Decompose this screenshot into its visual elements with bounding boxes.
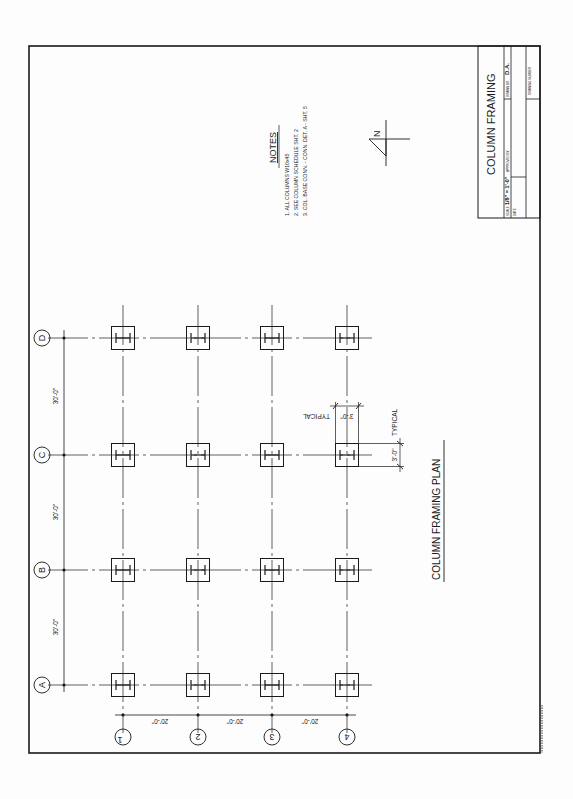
spacing-label-b-c: 30'-0": [52, 503, 59, 520]
svg-text:C: C: [37, 451, 47, 458]
title-block-drawn-label: DRAWN BY: [506, 81, 510, 97]
title-block-scale-label: SCALE: [506, 206, 510, 216]
title-block-date-label: DATE: [513, 208, 517, 216]
typical-dim-value-1: 3'-0": [340, 413, 354, 420]
note-item: 2. SEE COLUMN SCHEDULE SHT. 2: [293, 129, 299, 216]
drawing-sheet: COLUMN FRAMING SCALE 1/8" = 1'-0" APPROV…: [0, 0, 573, 799]
grid-bubble-a: A: [34, 677, 50, 693]
grid-spacing-labels: 30'-0" 30'-0" 30'-0" 20'-0" 20'-0" 20'-0…: [52, 387, 318, 725]
svg-text:D: D: [37, 334, 47, 341]
plan-title-text: COLUMN FRAMING PLAN: [431, 459, 442, 580]
svg-text:2: 2: [195, 732, 200, 742]
svg-text:4: 4: [344, 732, 349, 742]
typical-dimension: 3'-0" TYPICAL 3'-0" TYPICAL: [303, 402, 404, 472]
title-block: COLUMN FRAMING SCALE 1/8" = 1'-0" APPROV…: [478, 46, 540, 218]
svg-text:B: B: [37, 567, 47, 573]
note-item: 1. ALL COLUMNS W10x45: [284, 154, 290, 216]
typical-dim-label-2: TYPICAL: [391, 409, 398, 436]
north-label: N: [372, 131, 382, 138]
spacing-label-3-4: 20'-0": [301, 718, 318, 725]
grid-lines-numbers: [123, 305, 347, 733]
spacing-label-a-b: 30'-0": [52, 618, 59, 635]
grid-lines-letters: [48, 338, 372, 685]
grid-bubbles-letters: D C B A: [34, 330, 50, 693]
note-item: 3. COL. BASE CONN. - CONN. DET. A - SHT.…: [302, 106, 308, 216]
spacing-label-c-d: 30'-0": [52, 387, 59, 404]
grid-bubble-c: C: [34, 447, 50, 463]
svg-text:A: A: [37, 682, 47, 688]
svg-text:3: 3: [269, 732, 274, 742]
title-block-drawing-number-label: DRAWING NUMBER: [528, 66, 532, 95]
grid-dimension-lines: [62, 330, 356, 717]
title-block-scale-value: 1/8" = 1'-0": [504, 176, 510, 205]
grid-bubbles-numbers: 1 2 3 4: [115, 729, 355, 745]
notes-heading: NOTES: [268, 132, 278, 163]
notes-block: NOTES 1. ALL COLUMNS W10x45 2. SEE COLUM…: [268, 106, 308, 216]
typical-dim-label-1: TYPICAL: [303, 413, 330, 420]
sheet-border: [29, 46, 540, 753]
grid-bubble-d: D: [34, 330, 50, 346]
column-grid: [112, 327, 359, 697]
svg-text:1: 1: [117, 735, 122, 745]
spacing-label-2-3: 20'-0": [226, 718, 243, 725]
grid-bubble-b: B: [34, 562, 50, 578]
north-arrow-icon: N: [369, 120, 410, 166]
plan-title: COLUMN FRAMING PLAN: [431, 440, 444, 582]
typical-dim-value-2: 3'-0": [391, 448, 398, 462]
title-block-drawn-value: D.A.: [504, 63, 510, 75]
title-block-title: COLUMN FRAMING: [485, 74, 497, 175]
title-block-approved-label: APPROVED BY: [506, 150, 510, 172]
spacing-label-1-2: 20'-0": [151, 718, 168, 725]
